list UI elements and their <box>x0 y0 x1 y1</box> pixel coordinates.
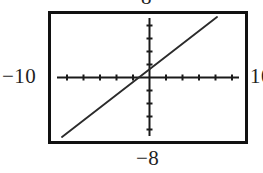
graph-figure: −10 10 8 −8 <box>0 0 263 173</box>
x-min-bound-label: −10 <box>2 66 36 87</box>
plot-area <box>51 14 245 141</box>
plot-canvas <box>51 14 245 141</box>
y-min-bound-label: −8 <box>136 148 159 169</box>
x-max-bound-label: 10 <box>250 66 263 87</box>
y-max-bound-label: 8 <box>141 0 152 8</box>
calculator-viewing-window <box>48 11 248 144</box>
